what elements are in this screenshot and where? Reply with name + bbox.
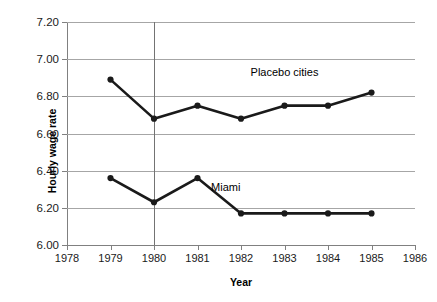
x-axis-tick	[198, 245, 199, 250]
x-axis-tick	[241, 245, 242, 250]
data-point-marker	[194, 175, 200, 181]
x-axis-tick	[415, 245, 416, 250]
data-point-marker	[151, 199, 157, 205]
x-axis-tick	[328, 245, 329, 250]
series-label-miami: Miami	[211, 181, 240, 193]
x-axis-title: Year	[67, 276, 415, 288]
data-point-marker	[151, 116, 157, 122]
x-axis-tick-label: 1983	[272, 252, 296, 264]
x-axis-tick-label: 1981	[185, 252, 209, 264]
data-point-marker	[281, 210, 287, 216]
y-axis-tick-label: 6.80	[37, 90, 59, 102]
plot-area: 6.006.206.406.606.807.007.20 19781979198…	[67, 22, 415, 245]
x-axis-tick	[154, 245, 155, 250]
x-axis-tick-label: 1984	[316, 252, 340, 264]
series-layer	[67, 22, 415, 245]
x-axis-tick	[111, 245, 112, 250]
data-point-marker	[325, 210, 331, 216]
data-point-marker	[238, 116, 244, 122]
data-point-marker	[107, 77, 113, 83]
x-axis-tick-label: 1985	[359, 252, 383, 264]
y-axis-tick-label: 6.60	[37, 128, 59, 140]
data-point-marker	[281, 103, 287, 109]
data-point-marker	[238, 210, 244, 216]
chart-figure: Hourly wage rate 6.006.206.406.606.807.0…	[0, 0, 437, 302]
data-point-marker	[325, 103, 331, 109]
x-axis-tick	[285, 245, 286, 250]
x-axis-tick-label: 1979	[98, 252, 122, 264]
x-axis-tick-label: 1986	[403, 252, 427, 264]
data-point-marker	[368, 210, 374, 216]
y-axis-tick-label: 6.00	[37, 239, 59, 251]
data-point-marker	[194, 103, 200, 109]
series-line	[111, 80, 372, 119]
x-axis-tick	[67, 245, 68, 250]
y-axis-tick-label: 7.00	[37, 53, 59, 65]
data-point-marker	[107, 175, 113, 181]
series-line	[111, 178, 372, 213]
y-axis-tick-label: 6.20	[37, 202, 59, 214]
x-axis-tick-label: 1980	[142, 252, 166, 264]
x-axis-tick-label: 1978	[55, 252, 79, 264]
data-point-marker	[368, 90, 374, 96]
series-label-placebo-cities: Placebo cities	[251, 66, 319, 78]
x-axis-tick	[372, 245, 373, 250]
y-axis-tick-label: 7.20	[37, 16, 59, 28]
y-axis-tick-label: 6.40	[37, 165, 59, 177]
x-axis-tick-label: 1982	[229, 252, 253, 264]
y-axis-title: Hourly wage rate	[46, 109, 58, 194]
